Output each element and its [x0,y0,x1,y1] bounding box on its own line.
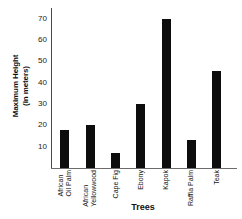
y-axis-line [51,8,52,168]
y-tick-label: 30 [38,100,47,108]
y-tick-label: 60 [38,36,47,44]
y-tick-label: 50 [38,57,47,65]
x-category-label-line: Oil Palm [65,170,73,196]
y-tick-label: 40 [38,79,47,87]
x-category-label-line: Cape Fig [112,170,120,198]
y-tick-label: 10 [38,143,47,151]
x-category-label-line: African [57,170,65,196]
x-axis-title: Trees [0,202,242,212]
x-axis-category-labels: AfricanOil PalmAfricanYellowwoodCape Fig… [51,170,237,204]
y-axis-title-line1: Maximum Height [11,55,21,118]
x-category-label-line: Raffia Palm [187,170,195,206]
plot-area: 10203040506070 [51,8,237,168]
x-axis-title-text: Trees [131,202,155,212]
bar [60,130,69,168]
x-category-label-line: Kapok [162,170,170,190]
y-axis-title-line2: (in meters) [21,55,31,118]
x-axis-line [51,168,237,169]
bar-chart: Maximum Height (in meters) 1020304050607… [0,0,242,219]
bar [212,71,221,168]
y-axis-title: Maximum Height (in meters) [8,38,34,134]
bar [187,140,196,168]
bar [162,19,171,168]
bar [136,104,145,168]
x-category-label-line: Teak [213,170,221,185]
y-tick-label: 20 [38,121,47,129]
y-tick-label: 70 [38,15,47,23]
bar [111,153,120,168]
bar [86,125,95,168]
x-category-label: Teak [200,170,234,204]
x-category-label-line: Ebony [137,170,145,190]
